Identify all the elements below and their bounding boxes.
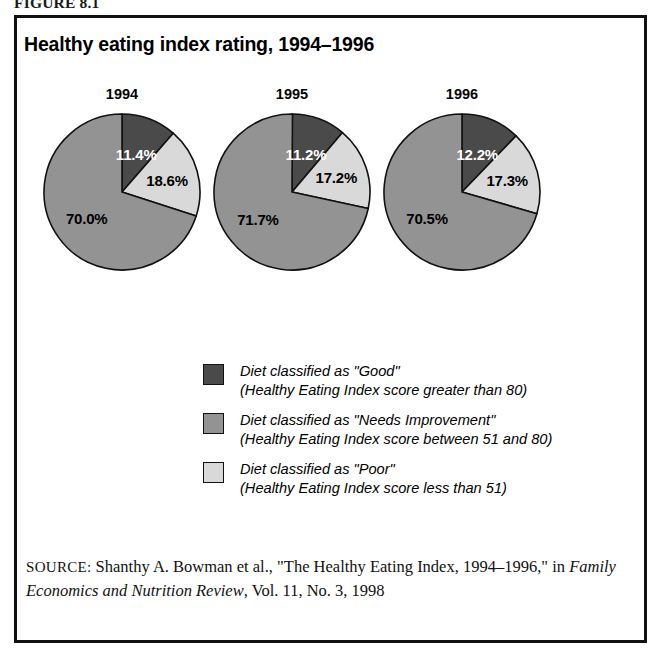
legend-text-block: Diet classified as "Good"(Healthy Eating… — [240, 362, 623, 400]
legend-line-secondary: (Healthy Eating Index score greater than… — [240, 381, 623, 400]
pie-svg — [212, 112, 372, 272]
pie-graphic: 12.2%17.3%70.5% — [382, 112, 542, 272]
legend-text-block: Diet classified as "Needs Improvement"(H… — [240, 411, 623, 449]
pie-year-label: 1996 — [362, 86, 562, 102]
pie-slice-label: 11.4% — [116, 146, 157, 163]
pie-chart-1996: 199612.2%17.3%70.5% — [362, 86, 562, 301]
chart-legend: Diet classified as "Good"(Healthy Eating… — [203, 362, 623, 509]
legend-item-good: Diet classified as "Good"(Healthy Eating… — [203, 362, 623, 400]
legend-swatch-icon — [203, 413, 224, 434]
pie-chart-row: 199411.4%18.6%70.0%199511.2%17.2%71.7%19… — [14, 86, 647, 301]
legend-text-block: Diet classified as "Poor"(Healthy Eating… — [240, 460, 623, 498]
pie-slice-label: 17.2% — [316, 168, 358, 185]
pie-slice-label: 11.2% — [286, 145, 327, 162]
legend-item-poor: Diet classified as "Poor"(Healthy Eating… — [203, 460, 623, 498]
legend-line-primary: Diet classified as "Needs Improvement" — [240, 411, 623, 430]
pie-graphic: 11.4%18.6%70.0% — [42, 112, 202, 272]
figure-number-label: FIGURE 8.1 — [14, 0, 100, 12]
pie-slice-label: 17.3% — [486, 171, 528, 188]
chart-title: Healthy eating index rating, 1994–1996 — [24, 33, 374, 56]
legend-swatch-icon — [203, 462, 224, 483]
source-note: SOURCE: Shanthy A. Bowman et al., "The H… — [26, 555, 626, 602]
legend-line-secondary: (Healthy Eating Index score less than 51… — [240, 479, 623, 498]
pie-svg — [42, 112, 202, 272]
legend-line-primary: Diet classified as "Good" — [240, 362, 623, 381]
pie-slice-label: 70.0% — [66, 209, 108, 226]
pie-slice-label: 18.6% — [146, 171, 188, 188]
legend-item-needs-improvement: Diet classified as "Needs Improvement"(H… — [203, 411, 623, 449]
legend-line-primary: Diet classified as "Poor" — [240, 460, 623, 479]
source-text-after-journal: , Vol. 11, No. 3, 1998 — [244, 581, 385, 600]
pie-slice-label: 70.5% — [406, 210, 448, 227]
legend-line-secondary: (Healthy Eating Index score between 51 a… — [240, 430, 623, 449]
pie-slice-label: 71.7% — [237, 211, 279, 228]
pie-graphic: 11.2%17.2%71.7% — [212, 112, 372, 272]
legend-swatch-icon — [203, 364, 224, 385]
source-label: SOURCE: — [26, 559, 91, 575]
pie-svg — [382, 112, 542, 272]
pie-slice-label: 12.2% — [456, 146, 498, 163]
source-text-before-journal: Shanthy A. Bowman et al., "The Healthy E… — [91, 557, 569, 576]
